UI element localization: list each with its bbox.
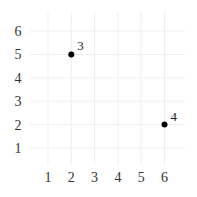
x-tick-label: 3: [91, 170, 98, 185]
y-tick-label: 1: [15, 141, 22, 156]
point-label: 3: [77, 38, 84, 53]
y-tick-label: 5: [15, 47, 22, 62]
y-tick-label: 3: [15, 94, 22, 109]
data-points: 34: [68, 38, 177, 127]
x-axis-ticks: 123456: [45, 170, 169, 185]
y-tick-label: 4: [15, 71, 22, 86]
x-tick-label: 1: [45, 170, 52, 185]
data-point: [162, 122, 168, 128]
point-label: 4: [171, 109, 178, 124]
x-tick-label: 2: [68, 170, 75, 185]
scatter-chart: 123456 123456 34: [0, 0, 197, 197]
x-tick-label: 5: [138, 170, 145, 185]
x-tick-label: 4: [114, 170, 121, 185]
y-axis-ticks: 123456: [15, 24, 22, 156]
grid: [30, 12, 185, 165]
y-tick-label: 6: [15, 24, 22, 39]
x-tick-label: 6: [161, 170, 168, 185]
data-point: [68, 51, 74, 57]
y-tick-label: 2: [15, 118, 22, 133]
